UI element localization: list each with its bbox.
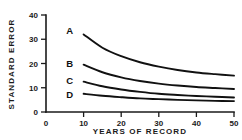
x-tick-label-0: 0: [44, 119, 49, 128]
standard-error-line-chart: 010203040 01020304050 ABCD STANDARD ERRO…: [0, 0, 242, 140]
y-tick-label-20: 20: [29, 60, 38, 69]
data-curves: [84, 34, 234, 101]
curve-B: [84, 65, 234, 89]
series-label-A: A: [66, 25, 73, 36]
chart-container: 010203040 01020304050 ABCD STANDARD ERRO…: [0, 0, 242, 140]
curve-A: [84, 34, 234, 75]
series-label-B: B: [66, 58, 73, 69]
x-tick-label-10: 10: [79, 119, 88, 128]
series-labels: ABCD: [66, 25, 73, 99]
y-axis-title: STANDARD ERROR: [7, 19, 16, 110]
y-tick-label-30: 30: [29, 35, 38, 44]
y-tick-label-10: 10: [29, 84, 38, 93]
series-label-D: D: [66, 89, 73, 100]
y-axis: 010203040: [29, 11, 46, 117]
y-tick-label-0: 0: [34, 108, 39, 117]
x-axis-title: YEARS OF RECORD: [93, 127, 187, 136]
x-tick-label-40: 40: [192, 119, 201, 128]
y-axis-tick-labels: 010203040: [29, 11, 38, 117]
y-tick-label-40: 40: [29, 11, 38, 20]
x-tick-label-50: 50: [230, 119, 239, 128]
series-label-C: C: [66, 75, 73, 86]
x-axis: 01020304050: [44, 112, 239, 128]
